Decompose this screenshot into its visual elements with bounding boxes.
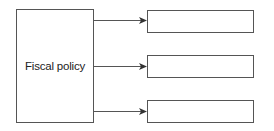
arrow-3 (94, 108, 147, 115)
arrow-1 (94, 17, 147, 24)
arrow-2 (94, 63, 147, 70)
connector-arrows (0, 0, 274, 131)
